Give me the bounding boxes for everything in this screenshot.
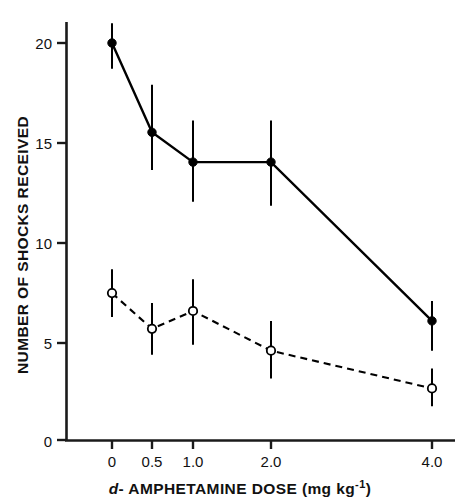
- series-solid-filled-circle-series: [108, 23, 436, 351]
- data-point-filled: [428, 317, 436, 325]
- data-point-open: [189, 307, 197, 315]
- x-tick-label-1p0: 1.0: [183, 453, 204, 470]
- data-point-filled: [189, 158, 197, 166]
- y-tick-label-5: 5: [44, 335, 52, 352]
- x-axis-title-superscript: -1: [355, 478, 366, 490]
- x-axis-tick-labels: 0 0.5 1.0 2.0 4.0: [108, 453, 443, 470]
- y-tick-label-0: 0: [44, 433, 52, 450]
- y-axis-tick-labels: 20 15 10 5 0: [35, 35, 52, 450]
- x-tick-label-0p5: 0.5: [142, 453, 163, 470]
- x-axis-title: d- AMPHETAMINE DOSE (mg kg-1): [109, 478, 372, 497]
- x-axis-title-main: - AMPHETAMINE DOSE (mg kg: [119, 480, 355, 497]
- data-point-open: [267, 346, 275, 354]
- y-axis-title: NUMBER OF SHOCKS RECEIVED: [14, 116, 31, 374]
- x-tick-label-0: 0: [108, 453, 116, 470]
- shocks-received-dose-response-chart: NUMBER OF SHOCKS RECEIVED 20 15 10 5 0: [0, 0, 462, 504]
- y-tick-label-15: 15: [35, 135, 52, 152]
- data-point-filled: [267, 158, 275, 166]
- x-axis-title-suffix: ): [366, 480, 372, 497]
- data-series-layer: [108, 23, 436, 406]
- x-tick-label-2p0: 2.0: [261, 453, 282, 470]
- x-axis-title-italic-prefix: d: [109, 480, 119, 497]
- data-point-open: [148, 325, 156, 333]
- figure-container: NUMBER OF SHOCKS RECEIVED 20 15 10 5 0: [0, 0, 462, 504]
- x-tick-label-4p0: 4.0: [422, 453, 443, 470]
- data-point-open: [108, 289, 116, 297]
- y-tick-label-20: 20: [35, 35, 52, 52]
- y-tick-label-10: 10: [35, 235, 52, 252]
- series-dashed-open-circle-series: [108, 269, 436, 406]
- data-point-open: [428, 384, 436, 392]
- y-axis-ticks: [57, 43, 66, 440]
- data-point-filled: [148, 128, 156, 136]
- data-point-filled: [108, 39, 116, 47]
